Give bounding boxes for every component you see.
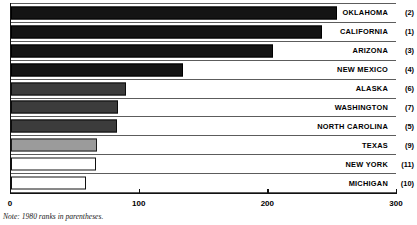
x-axis-tick <box>10 189 11 194</box>
chart-note: Note: 1980 ranks in parentheses. <box>3 212 103 221</box>
bar-arizona <box>11 44 273 57</box>
x-axis-tick-label: 0 <box>8 199 12 208</box>
bar-michigan <box>11 177 86 190</box>
bar-row <box>11 174 396 193</box>
bar-new-york <box>11 158 96 171</box>
x-axis-tick <box>267 189 268 194</box>
bar-row <box>11 99 396 118</box>
x-axis-tick-label: 300 <box>389 199 402 208</box>
bar-row <box>11 3 396 23</box>
bar-new-mexico <box>11 63 183 76</box>
bar-row <box>11 136 396 155</box>
x-axis-tick <box>139 189 140 194</box>
x-axis <box>10 193 396 194</box>
bar-washington <box>11 101 118 114</box>
bar-rows <box>11 3 396 193</box>
x-axis-tick-label: 200 <box>261 199 274 208</box>
x-axis-tick <box>396 189 397 194</box>
bar-california <box>11 25 322 38</box>
bar-row <box>11 80 396 99</box>
bar-oklahoma <box>11 6 337 19</box>
x-axis-tick-label: 100 <box>132 199 145 208</box>
bar-chart: OKLAHOMA(2)CALIFORNIA(1)ARIZONA(3)NEW ME… <box>0 0 417 225</box>
bar-row <box>11 23 396 42</box>
bar-row <box>11 42 396 61</box>
bar-row <box>11 117 396 136</box>
bar-texas <box>11 139 97 152</box>
bar-alaska <box>11 82 126 95</box>
bar-north-carolina <box>11 120 117 133</box>
bar-row <box>11 61 396 80</box>
plot-area <box>10 3 396 193</box>
bar-row <box>11 155 396 174</box>
